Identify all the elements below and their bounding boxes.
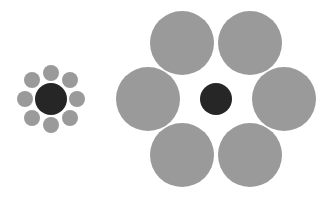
surround-circle [69, 91, 85, 107]
surround-circle [218, 11, 282, 75]
center-circle [35, 83, 67, 115]
surround-circle [17, 91, 33, 107]
surround-circle [24, 110, 40, 126]
surround-circle [252, 67, 316, 131]
surround-circle [43, 65, 59, 81]
surround-circle [43, 117, 59, 133]
ebbinghaus-illusion-diagram [0, 0, 332, 198]
right-group-large-surround [116, 11, 316, 187]
surround-circle [62, 72, 78, 88]
center-circle [200, 83, 232, 115]
surround-circle [218, 123, 282, 187]
surround-circle [24, 72, 40, 88]
surround-circle [62, 110, 78, 126]
left-group-small-surround [17, 65, 85, 133]
surround-circle [150, 123, 214, 187]
surround-circle [116, 67, 180, 131]
surround-circle [150, 11, 214, 75]
